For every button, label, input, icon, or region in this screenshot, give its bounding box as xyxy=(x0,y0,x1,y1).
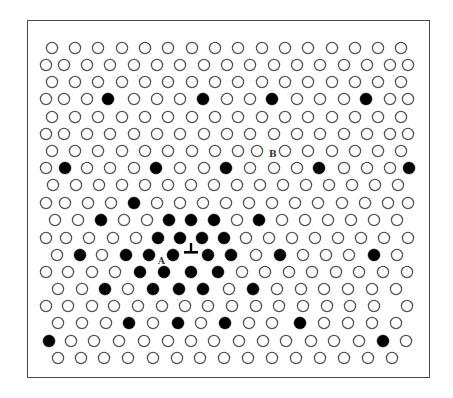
open-atom xyxy=(263,232,274,243)
open-atom xyxy=(139,111,150,122)
open-atom xyxy=(209,145,220,156)
open-atom xyxy=(174,59,185,70)
open-atom xyxy=(185,179,196,190)
open-atom xyxy=(361,59,372,70)
open-atom xyxy=(81,93,92,104)
open-atom xyxy=(402,128,413,139)
open-atom xyxy=(81,59,92,70)
open-atom xyxy=(283,266,294,277)
open-atom xyxy=(65,335,76,346)
open-atom xyxy=(297,300,308,311)
open-atom xyxy=(116,179,127,190)
filled-atom xyxy=(247,283,259,295)
filled-atom xyxy=(220,162,232,174)
open-atom xyxy=(402,93,413,104)
open-atom xyxy=(256,76,267,87)
open-atom xyxy=(109,266,120,277)
open-atom xyxy=(69,76,80,87)
open-atom xyxy=(402,59,413,70)
filled-atom xyxy=(360,93,372,105)
open-atom xyxy=(60,232,71,243)
filled-atom xyxy=(403,162,415,174)
open-atom xyxy=(323,179,334,190)
open-atom xyxy=(208,179,219,190)
open-atom xyxy=(369,179,380,190)
open-atom xyxy=(113,335,124,346)
open-atom xyxy=(81,128,92,139)
filled-atom xyxy=(185,266,197,278)
open-atom xyxy=(349,76,360,87)
open-atom xyxy=(139,76,150,87)
open-atom xyxy=(342,317,353,328)
open-atom xyxy=(306,266,317,277)
open-atom xyxy=(297,249,308,260)
open-atom xyxy=(242,352,253,363)
open-atom xyxy=(328,335,339,346)
open-atom xyxy=(400,335,411,346)
open-atom xyxy=(244,162,255,173)
open-atom xyxy=(318,317,329,328)
open-atom xyxy=(174,93,185,104)
open-atom xyxy=(105,197,116,208)
open-atom xyxy=(128,128,139,139)
open-atom xyxy=(132,300,143,311)
open-atom xyxy=(218,352,229,363)
open-atom xyxy=(83,232,94,243)
filled-atom xyxy=(147,283,159,295)
open-atom xyxy=(290,352,301,363)
open-atom xyxy=(268,59,279,70)
open-atom xyxy=(139,179,150,190)
filled-atom xyxy=(167,249,179,261)
open-atom xyxy=(280,335,291,346)
open-atom xyxy=(233,335,244,346)
label-b: B xyxy=(269,150,277,159)
open-atom xyxy=(151,197,162,208)
open-atom xyxy=(372,76,383,87)
open-atom xyxy=(49,214,60,225)
open-atom xyxy=(231,179,242,190)
open-atom xyxy=(92,42,103,53)
open-atom xyxy=(273,300,284,311)
filled-atom xyxy=(163,214,175,226)
open-atom xyxy=(198,162,209,173)
open-atom xyxy=(162,145,173,156)
open-atom xyxy=(326,42,337,53)
open-atom xyxy=(104,162,115,173)
filled-atom xyxy=(266,93,278,105)
open-atom xyxy=(52,317,63,328)
open-atom xyxy=(139,42,150,53)
open-atom xyxy=(302,145,313,156)
open-atom xyxy=(266,352,277,363)
open-atom xyxy=(194,352,205,363)
open-atom xyxy=(209,42,220,53)
open-atom xyxy=(76,283,87,294)
filled-atom xyxy=(208,214,220,226)
open-atom xyxy=(372,42,383,53)
open-atom xyxy=(92,76,103,87)
open-atom xyxy=(386,352,397,363)
open-atom xyxy=(256,42,267,53)
open-atom xyxy=(195,317,206,328)
filled-atom xyxy=(294,317,306,329)
open-atom xyxy=(314,352,325,363)
open-atom xyxy=(343,249,354,260)
open-atom xyxy=(40,197,51,208)
filled-atom xyxy=(202,249,214,261)
open-atom xyxy=(208,335,219,346)
open-atom xyxy=(384,162,395,173)
open-atom xyxy=(305,335,316,346)
open-atom xyxy=(266,197,277,208)
open-atom xyxy=(58,128,69,139)
open-atom xyxy=(62,300,73,311)
open-atom xyxy=(232,145,243,156)
open-atom xyxy=(58,59,69,70)
open-atom xyxy=(302,76,313,87)
open-atom xyxy=(128,59,139,70)
atom-lattice xyxy=(28,21,430,378)
open-atom xyxy=(198,128,209,139)
open-atom xyxy=(46,42,57,53)
open-atom xyxy=(59,197,70,208)
open-atom xyxy=(286,232,297,243)
filled-atom xyxy=(102,93,114,105)
open-atom xyxy=(46,145,57,156)
